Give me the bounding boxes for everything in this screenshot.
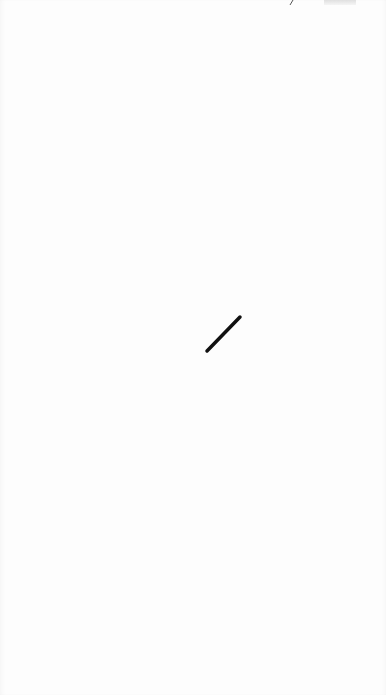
- diagonal-slash-stroke: [207, 317, 240, 351]
- drawing-surface[interactable]: [0, 0, 386, 695]
- blank-canvas: [0, 0, 386, 695]
